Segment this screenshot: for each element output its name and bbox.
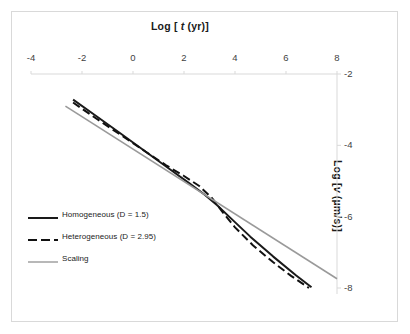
legend-label: Heterogeneous (D = 2.95): [62, 232, 156, 241]
legend-swatch-icon: [28, 209, 58, 219]
legend-item: Heterogeneous (D = 2.95): [28, 225, 156, 247]
plot-area: [0, 0, 410, 334]
chart-legend: Homogeneous (D = 1.5)Heterogeneous (D = …: [28, 203, 156, 269]
legend-label: Homogeneous (D = 1.5): [62, 210, 149, 219]
chart-figure: Log [ t (yr)] Log [v (µm/s)] -4-202468 -…: [0, 0, 410, 334]
legend-item: Homogeneous (D = 1.5): [28, 203, 156, 225]
legend-label: Scaling: [62, 254, 89, 263]
legend-item: Scaling: [28, 247, 156, 269]
legend-swatch-icon: [28, 253, 58, 263]
legend-swatch-icon: [28, 231, 58, 241]
